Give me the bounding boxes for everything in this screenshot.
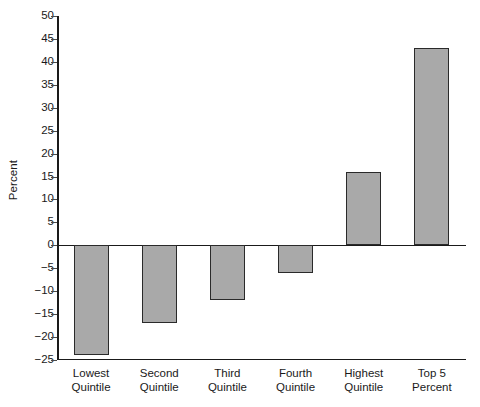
x-category-label-line1: Top 5 bbox=[418, 367, 446, 379]
x-category-label-line2: Quintile bbox=[57, 380, 125, 394]
x-category-label-line1: Third bbox=[214, 367, 240, 379]
y-axis-tick-labels: 50454035302520151050−5−10−15−20−25 bbox=[20, 0, 54, 407]
y-axis-line bbox=[57, 16, 59, 360]
x-category-label-line1: Lowest bbox=[73, 367, 109, 379]
y-tick-mark bbox=[51, 39, 57, 40]
y-tick-label: 20 bbox=[22, 148, 54, 160]
y-tick-label: 35 bbox=[22, 79, 54, 91]
y-tick-mark bbox=[51, 85, 57, 86]
x-category-label-line2: Quintile bbox=[193, 380, 261, 394]
y-tick-label: 45 bbox=[22, 33, 54, 45]
y-tick-label: 30 bbox=[22, 102, 54, 114]
bar bbox=[142, 245, 177, 323]
y-tick-label: −25 bbox=[22, 354, 54, 366]
y-tick-mark bbox=[51, 131, 57, 132]
y-tick-label: 0 bbox=[22, 240, 54, 252]
x-category-label: ThirdQuintile bbox=[193, 366, 261, 394]
y-tick-label: 15 bbox=[22, 171, 54, 183]
y-tick-mark bbox=[51, 337, 57, 338]
zero-baseline bbox=[57, 245, 466, 247]
y-tick-mark bbox=[51, 199, 57, 200]
y-tick-mark bbox=[51, 177, 57, 178]
x-category-label: SecondQuintile bbox=[125, 366, 193, 394]
bar-chart: Percent 50454035302520151050−5−10−15−20−… bbox=[0, 0, 480, 407]
y-tick-mark bbox=[51, 245, 57, 246]
x-category-label-line1: Second bbox=[140, 367, 179, 379]
x-category-label: HighestQuintile bbox=[330, 366, 398, 394]
x-category-label: Top 5Percent bbox=[398, 366, 466, 394]
y-tick-label: 5 bbox=[22, 217, 54, 229]
x-category-label-line2: Quintile bbox=[330, 380, 398, 394]
bar bbox=[210, 245, 245, 300]
y-tick-mark bbox=[51, 268, 57, 269]
y-tick-mark bbox=[51, 222, 57, 223]
y-tick-mark bbox=[51, 108, 57, 109]
bar bbox=[414, 48, 449, 245]
x-category-label-line2: Percent bbox=[398, 380, 466, 394]
bar bbox=[346, 172, 381, 245]
plot-area bbox=[57, 16, 466, 360]
y-tick-mark bbox=[51, 314, 57, 315]
y-tick-mark bbox=[51, 16, 57, 17]
y-tick-label: 10 bbox=[22, 194, 54, 206]
x-category-label: LowestQuintile bbox=[57, 366, 125, 394]
x-category-label-line1: Highest bbox=[344, 367, 383, 379]
y-tick-label: 50 bbox=[22, 10, 54, 22]
y-axis-title-text: Percent bbox=[7, 160, 19, 200]
x-category-label: FourthQuintile bbox=[262, 366, 330, 394]
bar bbox=[74, 245, 109, 355]
x-category-label-line1: Fourth bbox=[279, 367, 312, 379]
y-tick-label: 40 bbox=[22, 56, 54, 68]
y-tick-label: −15 bbox=[22, 308, 54, 320]
bar bbox=[278, 245, 313, 273]
y-tick-label: −20 bbox=[22, 331, 54, 343]
y-tick-mark bbox=[51, 360, 57, 361]
y-tick-label: −10 bbox=[22, 285, 54, 297]
x-axis-line bbox=[57, 359, 466, 361]
y-tick-mark bbox=[51, 154, 57, 155]
y-tick-label: 25 bbox=[22, 125, 54, 137]
y-tick-label: −5 bbox=[22, 263, 54, 275]
y-tick-mark bbox=[51, 62, 57, 63]
x-category-label-line2: Quintile bbox=[262, 380, 330, 394]
y-tick-mark bbox=[51, 291, 57, 292]
x-category-label-line2: Quintile bbox=[125, 380, 193, 394]
